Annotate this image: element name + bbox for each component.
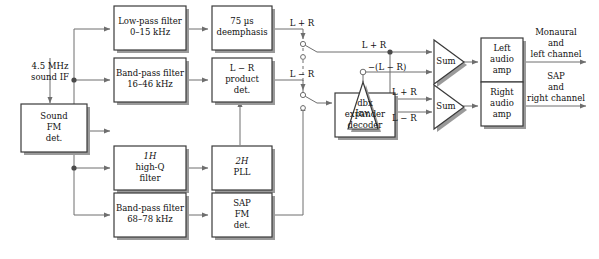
switch-contact-upper-alt xyxy=(301,55,306,60)
output-label-monaural-1: Monaural xyxy=(516,28,596,38)
block-label-pll-2: PLL xyxy=(212,168,272,178)
block-label-low-pass-filter-2: 0–15 kHz xyxy=(114,28,186,38)
input-label-line1: 4.5 MHz xyxy=(14,62,86,72)
block-label-sap-fm-det-2: FM xyxy=(212,210,272,220)
inverter-output-terminal xyxy=(360,69,366,75)
block-label-product-det-1: L − R xyxy=(212,64,272,74)
switch-pivot-upper xyxy=(300,41,305,46)
switch-contact-lower-alt xyxy=(301,106,306,111)
block-label-right-amp-3: amp xyxy=(481,110,523,120)
signal-label-l-minus-r-switch: L − R xyxy=(276,70,328,80)
signal-label-l-plus-r-switch: L + R xyxy=(276,19,328,29)
diagram-vector-layer xyxy=(0,0,599,259)
signal-label-l-plus-r-top: L + R xyxy=(348,41,400,51)
block-label-pll-1: 2H xyxy=(212,157,272,167)
signal-label-l-plus-r-bottom: L + R xyxy=(392,88,436,98)
signal-label-l-minus-r-bottom: L − R xyxy=(392,114,436,124)
block-label-sap-fm-det-1: SAP xyxy=(212,199,272,209)
block-label-sound-fm-det-3: det. xyxy=(21,134,87,144)
block-diagram-canvas: 4.5 MHz sound IF Sound FM det. Low-pass … xyxy=(0,0,599,259)
block-label-high-q-1: 1H xyxy=(114,152,186,162)
block-label-deemphasis-1: 75 µs xyxy=(212,17,272,27)
block-label-sap-fm-det-3: det. xyxy=(212,221,272,231)
amplifier-label-inverter: Inv. xyxy=(348,109,378,119)
block-label-product-det-3: det. xyxy=(212,86,272,96)
input-label-line2: sound IF xyxy=(14,73,86,83)
output-label-monaural-3: left channel xyxy=(516,50,596,60)
output-label-sap-2: and xyxy=(516,83,596,93)
block-label-band-pass-68-78-2: 68–78 kHz xyxy=(114,215,186,225)
junction-bus-highq xyxy=(71,165,76,170)
output-label-monaural-2: and xyxy=(516,39,596,49)
block-label-low-pass-filter-1: Low-pass filter xyxy=(114,17,186,27)
block-label-high-q-3: filter xyxy=(114,174,186,184)
block-label-deemphasis-2: deemphasis xyxy=(212,28,272,38)
block-label-band-pass-68-78-1: Band-pass filter xyxy=(114,204,186,214)
block-label-band-pass-16-46-2: 16–46 kHz xyxy=(114,80,186,90)
block-label-product-det-2: product xyxy=(212,75,272,85)
output-label-sap-3: right channel xyxy=(516,94,596,104)
block-label-high-q-2: high-Q xyxy=(114,163,186,173)
block-label-sound-fm-det-2: FM xyxy=(21,123,87,133)
block-boxes xyxy=(21,6,526,240)
switch-pivot-lower xyxy=(300,92,305,97)
amplifier-label-sum-bottom: Sum xyxy=(432,102,460,112)
block-label-sound-fm-det-1: Sound xyxy=(21,112,87,122)
amplifier-label-sum-top: Sum xyxy=(432,57,460,67)
output-label-sap-1: SAP xyxy=(516,72,596,82)
block-label-band-pass-16-46-1: Band-pass filter xyxy=(114,69,186,79)
signal-label-neg-l-minus-r: −(L − R) xyxy=(368,63,432,73)
block-label-dbx-3: decoder xyxy=(335,121,395,131)
